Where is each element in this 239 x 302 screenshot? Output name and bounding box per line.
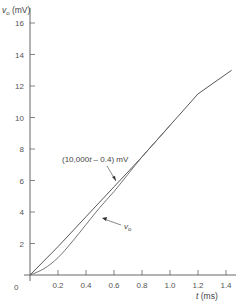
chart: 246810121416 0.20.40.60.81.01.21.4 0 vo …: [0, 0, 239, 302]
arrowhead-icon: [102, 217, 107, 221]
x-tick-label: 0.8: [136, 281, 148, 290]
y-axis-title: vo (mV): [2, 5, 31, 16]
x-tick-label: 1.0: [164, 281, 176, 290]
y-tick-label: 14: [15, 51, 24, 60]
origin-label: 0: [14, 283, 19, 292]
y-tick-label: 12: [15, 82, 24, 91]
y-tick-label: 6: [20, 177, 25, 186]
x-tick-label: 0.2: [52, 281, 64, 290]
x-tick-label: 1.4: [220, 281, 232, 290]
x-ticks: 0.20.40.60.81.01.21.4: [52, 270, 232, 290]
y-tick-label: 10: [15, 114, 24, 123]
y-tick-label: 16: [15, 19, 24, 28]
y-tick-label: 2: [20, 240, 25, 249]
vo-curve: [30, 125, 170, 275]
asymptote-line: [30, 70, 232, 275]
y-ticks: 246810121416: [15, 19, 35, 249]
arrowhead-icon: [112, 176, 116, 181]
vo-pointer: [104, 219, 121, 225]
x-tick-label: 0.4: [80, 281, 92, 290]
x-tick-label: 1.2: [192, 281, 204, 290]
vo-label: vo: [124, 222, 132, 232]
x-axis-title: t (ms): [196, 291, 218, 301]
asymptote-label: (10,000t – 0.4) mV: [62, 155, 129, 164]
y-tick-label: 4: [20, 208, 25, 217]
x-tick-label: 0.6: [108, 281, 120, 290]
y-tick-label: 8: [20, 145, 25, 154]
